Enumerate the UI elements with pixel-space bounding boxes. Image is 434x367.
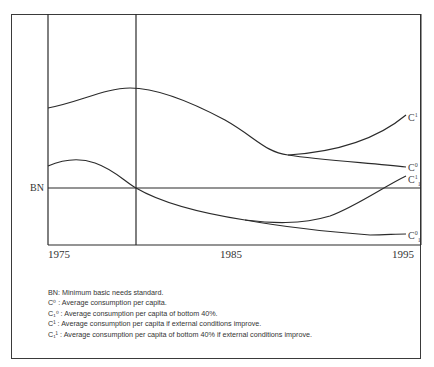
legend-item-c1-1: C₁¹ : Average consumption per capita of …: [48, 330, 312, 340]
x-tick-1995: 1995: [392, 248, 414, 260]
end-label-c1-1: C11: [408, 172, 421, 189]
curve-c1: [288, 115, 406, 155]
bn-label: BN: [30, 182, 44, 193]
legend-item-c1: C¹ : Average consumption per capita if e…: [48, 319, 312, 329]
legend-item-c0: C⁰ : Average consumption per capita.: [48, 298, 312, 308]
chart-legend: BN: Minimum basic needs standard. C⁰ : A…: [48, 288, 312, 340]
x-tick-1985: 1985: [220, 248, 242, 260]
curve-c1-1: [245, 176, 406, 223]
legend-item-c1-0: C₁⁰ : Average consumption per capita of …: [48, 309, 312, 319]
legend-item-bn: BN: Minimum basic needs standard.: [48, 288, 312, 298]
curve-c0: [48, 88, 406, 167]
end-label-c1-0: C01: [408, 228, 421, 245]
end-label-c1: C1: [408, 110, 418, 123]
curve-c1-0: [48, 160, 406, 235]
x-tick-1975: 1975: [48, 248, 70, 260]
